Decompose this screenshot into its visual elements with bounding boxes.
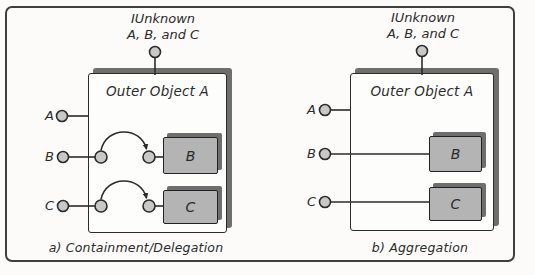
interface-label-a-B: B (34, 149, 54, 165)
inner-interface-circle-icon-a-C2 (143, 200, 155, 212)
iunknown-lollipop-icon-a (150, 47, 161, 58)
interface-lollipop-icon-b-C (320, 197, 331, 208)
interface-label-b-C: C (296, 194, 316, 210)
inner-object-label: C (186, 199, 196, 215)
inner-interface-circle-icon-a-B1 (95, 151, 107, 163)
delegation-arc-C (101, 181, 147, 200)
inner-object-label: B (186, 148, 196, 164)
inner-object-box-a-C: C (163, 190, 218, 224)
interface-lollipop-icon-b-B (320, 149, 331, 160)
interface-lollipop-icon-b-A (320, 105, 331, 116)
delegation-arc-B (101, 132, 147, 151)
inner-interface-circle-icon-a-B2 (143, 151, 155, 163)
inner-interface-circle-icon-a-C1 (95, 200, 107, 212)
interface-lollipop-icon-a-A (57, 111, 68, 122)
inner-object-box-a-B: B (163, 137, 218, 174)
iunknown-sublabel: A, B, and C (93, 27, 233, 43)
interface-label-b-A: A (296, 102, 316, 118)
inner-object-label: C (451, 196, 461, 212)
inner-object-label: B (451, 146, 461, 162)
interface-label-a-C: C (34, 198, 54, 214)
caption-containment-delegation: a) Containment/Delegation (26, 240, 246, 255)
diagram-canvas: Outer Object A Outer Object A (0, 0, 535, 275)
interface-lollipop-icon-a-B (58, 152, 69, 163)
top-interface-label-b: IUnknown A, B, and C (353, 10, 493, 42)
interface-label-b-B: B (296, 146, 316, 162)
caption-aggregation: b) Aggregation (310, 240, 530, 255)
iunknown-lollipop-icon-b (417, 46, 428, 57)
inner-object-box-b-C: C (429, 187, 482, 221)
inner-object-box-b-B: B (429, 136, 482, 172)
iunknown-sublabel: A, B, and C (353, 26, 493, 42)
iunknown-label: IUnknown (93, 11, 233, 27)
interface-lollipop-icon-a-C (58, 201, 69, 212)
top-interface-label-a: IUnknown A, B, and C (93, 11, 233, 43)
iunknown-label: IUnknown (353, 10, 493, 26)
interface-label-a-A: A (34, 108, 54, 124)
